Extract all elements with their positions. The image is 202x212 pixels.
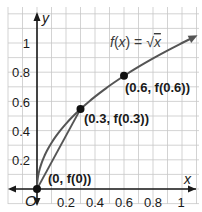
y-tick-label: 1	[23, 36, 30, 51]
point-0-6	[120, 72, 128, 80]
point-label-origin: (0, f(0))	[48, 171, 91, 186]
x-axis-left-arrow-icon	[8, 186, 16, 193]
y-tick-labels: 0.2 0.4 0.6 0.8 1	[12, 36, 30, 168]
x-tick-label: 1	[177, 195, 184, 210]
x-tick-label: 0.2	[57, 195, 75, 210]
x-axis-label: x	[183, 171, 192, 187]
point-label-0-3: (0.3, f(0.3))	[84, 111, 149, 126]
x-tick-label: 0.6	[115, 195, 133, 210]
origin-label: O	[25, 192, 37, 209]
x-tick-labels: 0.2 0.4 0.6 0.8 1	[57, 195, 185, 210]
x-tick-label: 0.8	[144, 195, 162, 210]
y-axis-label: y	[41, 10, 50, 26]
function-label: f(x) = √x	[110, 34, 162, 50]
x-tick-label: 0.4	[86, 195, 104, 210]
y-tick-label: 0.4	[12, 124, 30, 139]
y-tick-label: 0.8	[12, 65, 30, 80]
y-axis-up-arrow-icon	[34, 12, 41, 21]
y-tick-label: 0.6	[12, 95, 30, 110]
chart: 0.2 0.4 0.6 0.8 1 0.2 0.4 0.6 0.8 1 y x …	[0, 0, 202, 212]
y-tick-label: 0.2	[12, 153, 30, 168]
point-label-0-6: (0.6, f(0.6))	[125, 80, 190, 95]
